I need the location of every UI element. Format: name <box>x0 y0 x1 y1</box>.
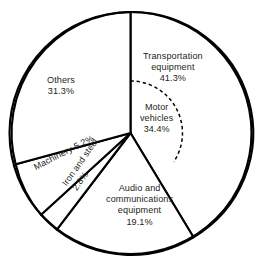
pie-label-motor-line1: Motor <box>140 102 173 113</box>
pie-chart: Transportation equipment 41.3% Motor veh… <box>0 0 267 261</box>
pie-label-transportation-equipment: Transportation equipment 41.3% <box>143 51 203 85</box>
pie-label-motor-vehicles: Motor vehicles 34.4% <box>140 102 173 136</box>
pie-label-transportation-line1: Transportation <box>143 51 203 62</box>
pie-label-transportation-value: 41.3% <box>143 73 203 84</box>
pie-label-others-value: 31.3% <box>47 86 75 97</box>
pie-label-others: Others 31.3% <box>47 75 75 97</box>
pie-label-others-line1: Others <box>47 75 75 86</box>
pie-label-motor-value: 34.4% <box>140 124 173 135</box>
pie-label-transportation-line2: equipment <box>143 62 203 73</box>
pie-label-audio-line2: communications <box>106 194 173 205</box>
pie-label-audio-value: 19.1% <box>106 217 173 228</box>
pie-label-audio-line1: Audio and <box>106 183 173 194</box>
pie-label-audio-line3: equipment <box>106 205 173 216</box>
pie-label-audio-and-communications-equipment: Audio and communications equipment 19.1% <box>106 183 173 228</box>
pie-label-motor-line2: vehicles <box>140 113 173 124</box>
